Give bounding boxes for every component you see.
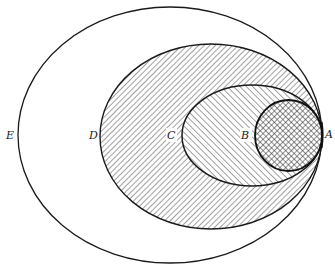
label-d: D: [88, 129, 98, 142]
label-c: C: [167, 129, 176, 142]
label-a: A: [324, 128, 333, 141]
label-e: E: [5, 129, 14, 142]
tangent-point-a-mark: [322, 122, 323, 148]
label-b: B: [240, 129, 249, 142]
nested-sets-diagram: E D C B A: [0, 0, 335, 272]
set-b: [255, 100, 322, 171]
set-b-ellipse: [255, 100, 322, 171]
